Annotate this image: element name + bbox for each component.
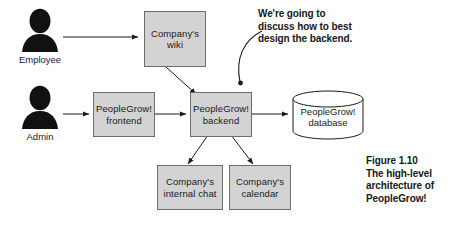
arrow-backend-to-internal-chat: [188, 135, 208, 164]
database-label-line1: PeopleGrow!: [301, 106, 356, 118]
caption-line-1: Figure 1.10: [366, 155, 466, 168]
node-frontend-line2: frontend: [96, 115, 152, 127]
node-backend-line1: PeopleGrow!: [193, 103, 249, 115]
caption-line-3: architecture of: [366, 180, 466, 193]
figure-caption: Figure 1.10 The high-level architecture …: [366, 155, 466, 205]
node-peoplegrow-backend[interactable]: PeopleGrow! backend: [190, 92, 252, 137]
actor-admin: Admin: [17, 85, 63, 142]
node-company-internal-chat[interactable]: Company's internal chat: [157, 165, 223, 210]
person-icon: [20, 85, 60, 129]
arrow-backend-to-calendar: [231, 135, 253, 164]
actor-admin-label: Admin: [17, 131, 63, 142]
node-company-calendar[interactable]: Company's calendar: [229, 165, 291, 210]
callout-line-1: We're going to: [258, 8, 408, 21]
person-icon: [20, 8, 60, 52]
node-calendar-line1: Company's: [236, 176, 284, 188]
arrow-wiki-to-backend: [166, 67, 196, 94]
node-internal-chat-line1: Company's: [163, 176, 216, 188]
actor-employee: Employee: [17, 8, 63, 65]
node-peoplegrow-database[interactable]: PeopleGrow! database: [292, 90, 364, 140]
node-peoplegrow-frontend[interactable]: PeopleGrow! frontend: [93, 92, 155, 137]
node-company-wiki[interactable]: Company's wiki: [144, 11, 206, 67]
callout-leader-dot: [238, 81, 243, 86]
node-calendar-line2: calendar: [236, 188, 284, 200]
callout-line-2: discuss how to best: [258, 21, 408, 34]
node-company-wiki-line2: wiki: [151, 39, 199, 51]
node-frontend-line1: PeopleGrow!: [96, 103, 152, 115]
database-label-line2: database: [308, 117, 347, 129]
caption-line-2: The high-level: [366, 168, 466, 181]
callout-line-3: design the backend.: [258, 33, 408, 46]
node-company-wiki-line1: Company's: [151, 28, 199, 40]
callout-text: We're going to discuss how to best desig…: [258, 8, 408, 46]
actor-employee-label: Employee: [17, 54, 63, 65]
caption-line-4: PeopleGrow!: [366, 193, 466, 206]
node-internal-chat-line2: internal chat: [163, 188, 216, 200]
architecture-diagram: Employee Admin Company's wiki PeopleGrow…: [0, 0, 467, 227]
node-backend-line2: backend: [193, 115, 249, 127]
